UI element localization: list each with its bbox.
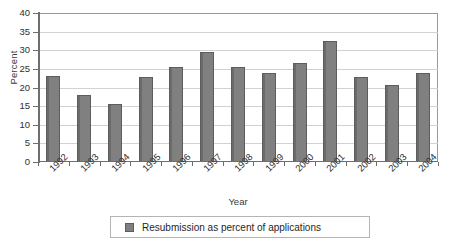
bar (139, 77, 153, 162)
bar-slot (192, 13, 223, 162)
bar-slot (315, 13, 346, 162)
y-axis-tick-label: 35 (19, 27, 30, 37)
legend-swatch-icon (125, 223, 134, 232)
y-axis-title: Percent (8, 33, 19, 103)
bar-chart: Percent 0510152025303540 199219931994199… (0, 0, 451, 250)
y-axis-tick-label: 20 (19, 83, 30, 93)
bar (323, 41, 337, 162)
bar-slot (38, 13, 69, 162)
y-axis-tick-label: 0 (25, 157, 30, 167)
bar-series (38, 13, 438, 162)
chart-legend: Resubmission as percent of applications (110, 216, 370, 238)
x-axis-labels: 1992199319941995199619971998199920002001… (38, 163, 438, 197)
bar-slot (69, 13, 100, 162)
y-axis-tick-label: 5 (25, 139, 30, 149)
bar-slot (346, 13, 377, 162)
bar-slot (253, 13, 284, 162)
bar (77, 95, 91, 162)
y-axis-tick-label: 15 (19, 101, 30, 111)
bar-slot (407, 13, 438, 162)
bar-slot (376, 13, 407, 162)
bar (416, 73, 430, 162)
bar-slot (284, 13, 315, 162)
bar (46, 76, 60, 162)
bar (293, 63, 307, 162)
legend-label: Resubmission as percent of applications (142, 222, 321, 233)
plot-area: 0510152025303540 (38, 13, 438, 162)
bar (385, 85, 399, 162)
bar-slot (223, 13, 254, 162)
bar (169, 67, 183, 162)
bar-slot (130, 13, 161, 162)
y-axis-line (38, 12, 40, 163)
y-axis-tick-label: 30 (19, 46, 30, 56)
y-axis-tick-label: 25 (19, 64, 30, 74)
bar (262, 73, 276, 162)
y-axis-tick-label: 10 (19, 120, 30, 130)
bar (231, 67, 245, 162)
x-axis-title: Year (38, 196, 438, 207)
x-axis-tick (438, 162, 439, 166)
bar-slot (161, 13, 192, 162)
bar-slot (100, 13, 131, 162)
bar (200, 52, 214, 162)
bar (354, 77, 368, 162)
y-axis-tick-label: 40 (19, 8, 30, 18)
